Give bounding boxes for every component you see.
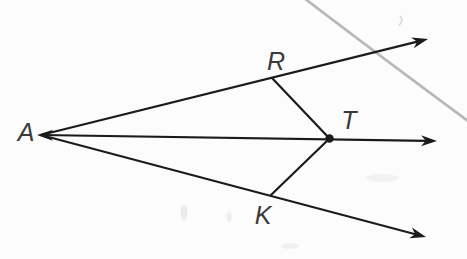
scan-smudge-1	[181, 205, 188, 221]
scan-smudge-2	[227, 212, 232, 222]
segment-K-T	[271, 139, 330, 196]
point-label-A: A	[18, 120, 35, 145]
diagram-canvas	[0, 0, 467, 259]
point-label-R: R	[267, 49, 285, 74]
point-label-K: K	[255, 203, 272, 228]
ray-A-through-R	[41, 41, 418, 135]
point-label-T: T	[341, 108, 356, 133]
ray-A-through-T	[41, 135, 427, 141]
scan-smudge-4	[366, 174, 398, 182]
point-T-dot	[325, 134, 333, 142]
scan-mark	[399, 16, 402, 26]
geometry-diagram: A R T K	[0, 0, 467, 259]
stray-pen-line	[304, 0, 467, 121]
scan-smudge-3	[281, 243, 299, 249]
segment-R-T	[272, 78, 330, 139]
